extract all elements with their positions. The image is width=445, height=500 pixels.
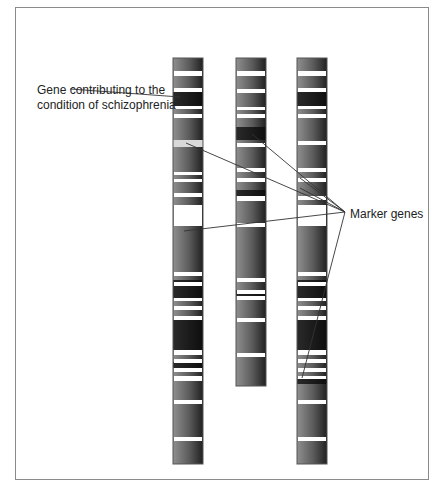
light-band: [237, 89, 265, 93]
light-band: [237, 296, 265, 300]
light-band: [174, 114, 202, 118]
light-band: [174, 88, 202, 92]
light-band: [237, 290, 265, 294]
light-band: [298, 88, 326, 92]
light-band: [237, 196, 265, 201]
light-band: [298, 272, 326, 276]
light-band: [298, 368, 326, 372]
light-band: [298, 168, 326, 172]
light-band: [237, 278, 265, 282]
light-band: [174, 71, 202, 76]
chromosomes-group: [173, 58, 327, 464]
dark-band: [297, 320, 327, 350]
light-band: [174, 272, 202, 276]
dark-band: [297, 379, 327, 384]
chromosome-1: [173, 58, 203, 464]
light-band: [237, 178, 265, 182]
gene-label: Gene contributing to the condition of sc…: [37, 83, 176, 113]
light-band: [174, 350, 202, 355]
light-band: [298, 350, 326, 355]
light-band: [174, 376, 202, 381]
dark-band: [236, 127, 266, 140]
light-band: [174, 193, 202, 197]
light-band: [298, 141, 326, 145]
light-band: [174, 172, 202, 175]
light-band: [174, 282, 202, 286]
light-band: [174, 316, 202, 320]
light-band: [298, 400, 326, 404]
chromosome-3: [297, 58, 327, 464]
light-band: [298, 316, 326, 320]
light-band: [174, 400, 202, 404]
marker-genes-label: Marker genes: [350, 207, 423, 222]
light-band: [298, 306, 326, 310]
light-band: [237, 143, 265, 147]
light-band: [174, 298, 202, 301]
dark-band: [173, 92, 203, 106]
light-band: [237, 318, 265, 322]
light-band: [174, 179, 202, 182]
light-band: [298, 114, 326, 118]
light-band: [174, 306, 202, 310]
light-band: [174, 359, 202, 363]
light-band: [298, 106, 326, 109]
light-band: [237, 71, 265, 76]
light-band: [174, 205, 202, 226]
light-band: [237, 114, 265, 118]
light-band: [237, 223, 265, 227]
light-band: [237, 353, 265, 357]
light-band: [298, 71, 326, 76]
light-band: [298, 282, 326, 286]
light-band: [298, 359, 326, 363]
light-band: [174, 437, 202, 441]
light-band: [174, 106, 202, 109]
light-band: [174, 368, 202, 372]
light-band: [237, 107, 265, 110]
chromosome-diagram: [0, 0, 445, 500]
dark-band: [173, 320, 203, 350]
dark-band: [236, 190, 266, 196]
light-band: [298, 437, 326, 441]
dark-band: [297, 92, 327, 106]
